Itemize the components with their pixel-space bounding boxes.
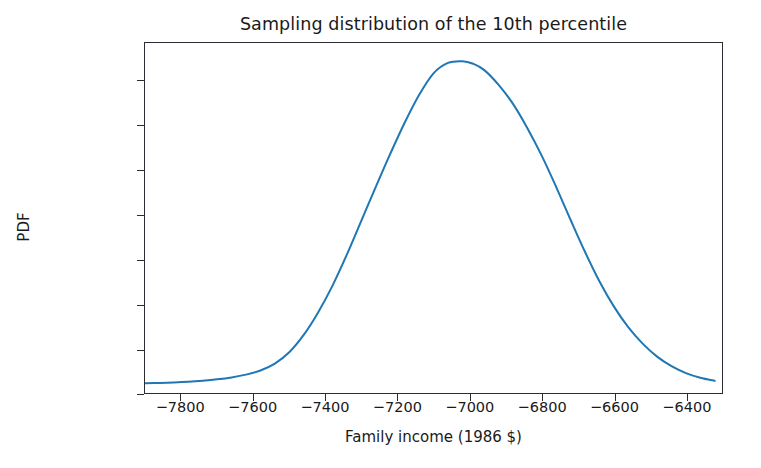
y-tick-mark (137, 394, 144, 395)
y-tick-mark (137, 350, 144, 351)
x-tick-label-7: −6400 (662, 399, 711, 415)
chart-title: Sampling distribution of the 10th percen… (144, 14, 723, 34)
x-tick-label-6: −6600 (590, 399, 639, 415)
x-tick-label-0: −7800 (156, 399, 205, 415)
x-tick-label-1: −7600 (228, 399, 277, 415)
x-tick-label-4: −7000 (445, 399, 494, 415)
y-axis-label: PDF (15, 197, 33, 257)
y-tick-mark (137, 125, 144, 126)
matplotlib-figure: Sampling distribution of the 10th percen… (0, 0, 761, 468)
x-tick-label-2: −7400 (300, 399, 349, 415)
pdf-curve-line (145, 61, 715, 383)
y-tick-mark (137, 215, 144, 216)
x-tick-label-5: −6800 (518, 399, 567, 415)
y-tick-mark (137, 305, 144, 306)
pdf-curve-svg (145, 43, 722, 393)
x-axis-label: Family income (1986 $) (144, 428, 723, 446)
x-tick-label-3: −7200 (373, 399, 422, 415)
y-tick-mark (137, 80, 144, 81)
y-tick-mark (137, 170, 144, 171)
y-tick-mark (137, 260, 144, 261)
plot-area (144, 42, 723, 394)
